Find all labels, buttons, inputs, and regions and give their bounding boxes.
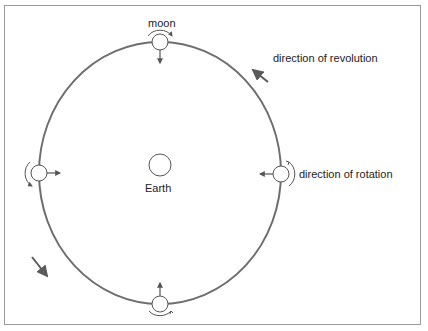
moon-label: moon <box>148 17 176 29</box>
earth-label: Earth <box>145 182 171 194</box>
revolution-arrow-icon <box>32 257 47 276</box>
rotation-label: direction of rotation <box>299 168 393 180</box>
revolution-arrow-icon <box>253 70 268 82</box>
moon-left <box>25 162 60 186</box>
moon-top <box>148 30 172 63</box>
rotation-arc-icon <box>289 162 295 186</box>
moon-bottom <box>149 283 173 316</box>
moon-right <box>260 161 295 186</box>
earth-circle <box>149 154 171 176</box>
revolution-label: direction of revolution <box>273 52 378 64</box>
moon-orbit-diagram <box>0 0 428 331</box>
